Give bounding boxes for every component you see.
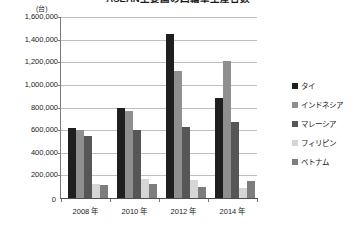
- y-axis-zero-label: 0: [0, 195, 56, 204]
- y-axis-tick-label: 200,000: [2, 171, 58, 179]
- plot-area: [61, 17, 257, 199]
- x-axis-tick-label: 2008 年: [58, 205, 114, 216]
- legend-item[interactable]: フィリピン: [292, 133, 356, 152]
- legend-label: マレーシア: [301, 118, 336, 129]
- y-axis-tick-label: 400,000: [2, 149, 58, 157]
- chart-container: ASEAN主要国の四輪車生産台数 (台) 1,600,0001,400,0001…: [0, 0, 356, 226]
- bar-group: [117, 17, 157, 198]
- chart-legend: タイインドネシアマレーシアフィリピンベトナム: [292, 76, 356, 171]
- bar[interactable]: [100, 185, 108, 198]
- bar-group: [68, 17, 108, 198]
- bar[interactable]: [117, 108, 125, 199]
- bar[interactable]: [223, 61, 231, 198]
- bar[interactable]: [133, 130, 141, 198]
- y-axis-tick-label: 1,000,000: [2, 81, 58, 89]
- legend-item[interactable]: マレーシア: [292, 114, 356, 133]
- x-axis-tick-mark: [257, 199, 258, 202]
- legend-swatch-icon: [292, 102, 298, 108]
- chart-title: ASEAN主要国の四輪車生産台数: [0, 0, 356, 3]
- y-axis-tick-labels: 1,600,0001,400,0001,200,0001,000,000800,…: [0, 17, 58, 199]
- x-axis-tick-label: 2012 年: [156, 205, 212, 216]
- x-axis-tick-label: 2010 年: [107, 205, 163, 216]
- bar[interactable]: [174, 71, 182, 198]
- bar-group: [166, 17, 206, 198]
- bar-group: [215, 17, 255, 198]
- bar[interactable]: [239, 188, 247, 198]
- y-axis-tick-label: 600,000: [2, 126, 58, 134]
- legend-label: インドネシア: [301, 99, 343, 110]
- legend-label: フィリピン: [301, 137, 336, 148]
- bar[interactable]: [76, 130, 84, 198]
- legend-swatch-icon: [292, 83, 298, 89]
- bar[interactable]: [166, 34, 174, 198]
- bar[interactable]: [84, 136, 92, 198]
- y-axis-tick-label: 800,000: [2, 104, 58, 112]
- bar[interactable]: [198, 187, 206, 198]
- bar[interactable]: [92, 184, 100, 198]
- bar[interactable]: [231, 122, 239, 198]
- y-axis-tick-label: 1,200,000: [2, 58, 58, 66]
- x-axis-tick-mark: [159, 199, 160, 202]
- x-axis-tick-mark: [110, 199, 111, 202]
- x-axis-tick-label: 2014 年: [205, 205, 261, 216]
- legend-swatch-icon: [292, 121, 298, 127]
- legend-swatch-icon: [292, 159, 298, 165]
- bar[interactable]: [247, 181, 255, 198]
- x-axis-tick-mark: [208, 199, 209, 202]
- y-axis-tick-label: 1,600,000: [2, 13, 58, 21]
- bar[interactable]: [149, 184, 157, 198]
- legend-item[interactable]: ベトナム: [292, 152, 356, 171]
- x-axis-tick-mark: [61, 199, 62, 202]
- y-axis-tick-label: 1,400,000: [2, 36, 58, 44]
- legend-item[interactable]: インドネシア: [292, 95, 356, 114]
- bar[interactable]: [68, 128, 76, 198]
- legend-label: ベトナム: [301, 156, 329, 167]
- bar[interactable]: [125, 111, 133, 198]
- legend-item[interactable]: タイ: [292, 76, 356, 95]
- bar[interactable]: [215, 98, 223, 198]
- legend-swatch-icon: [292, 140, 298, 146]
- bar[interactable]: [190, 180, 198, 198]
- legend-label: タイ: [301, 80, 315, 91]
- bar[interactable]: [182, 127, 190, 198]
- bar[interactable]: [141, 179, 149, 198]
